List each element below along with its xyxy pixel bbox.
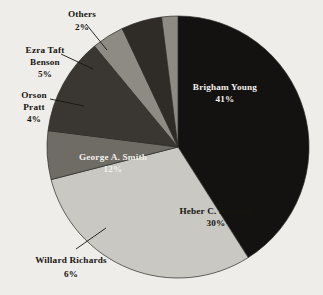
slice-label-ezra-taft-benson-line1: Ezra Taft <box>26 45 66 55</box>
slice-label-others: Others <box>68 9 96 19</box>
slice-value-heber-c-kimball: 30% <box>207 218 226 228</box>
slice-value-george-a-smith: 12% <box>104 164 123 174</box>
slice-label-orson-pratt-line2: Pratt <box>23 102 45 112</box>
pie-chart-canvas: Brigham Young 41% Heber C. Kimball 30% G… <box>0 0 323 295</box>
pie-chart: Brigham Young 41% Heber C. Kimball 30% G… <box>0 0 323 295</box>
slice-value-brigham-young: 41% <box>216 94 235 104</box>
slice-label-heber-c-kimball: Heber C. Kimball <box>179 206 252 216</box>
slice-label-brigham-young: Brigham Young <box>193 82 257 92</box>
slice-label-george-a-smith: George A. Smith <box>79 152 147 162</box>
slice-label-willard-richards: Willard Richards <box>35 255 107 265</box>
slice-value-others: 2% <box>75 22 89 32</box>
pie-slices <box>47 16 309 278</box>
slice-label-orson-pratt-line1: Orson <box>21 90 47 100</box>
slice-value-orson-pratt: 4% <box>27 114 41 124</box>
slice-value-ezra-taft-benson: 5% <box>38 69 52 79</box>
slice-value-willard-richards: 6% <box>64 269 78 279</box>
slice-label-ezra-taft-benson-line2: Benson <box>30 57 60 67</box>
